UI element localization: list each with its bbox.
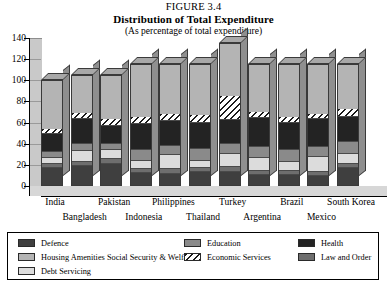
legend-swatch-defence (18, 239, 35, 247)
bar-segment-housing-amenities-social-security-welfare (72, 76, 92, 113)
bar-front-face (307, 64, 329, 186)
legend-label: Defence (41, 239, 69, 248)
bar-south-korea[interactable] (337, 64, 359, 186)
bar-segment-defence (220, 172, 240, 186)
bar-segment-education (190, 149, 210, 161)
bar-front-face (189, 64, 211, 186)
bar-side-face (122, 60, 129, 176)
bar-segment-debt-servicing (220, 154, 240, 167)
bar-pakistan[interactable] (100, 75, 122, 186)
plot-area: 020406080100120140 (0, 38, 387, 198)
bar-side-face (63, 65, 70, 176)
x-axis-label-brazil: Brazil (280, 196, 303, 208)
y-tick-mark (24, 101, 29, 102)
legend-label: Debt Servicing (41, 267, 91, 276)
y-tick-mark (24, 80, 29, 81)
bar-segment-debt-servicing (249, 158, 269, 171)
bar-segment-education (160, 146, 180, 156)
bar-segment-health (42, 134, 62, 152)
bar-segment-defence (42, 168, 62, 186)
legend-item-law-and-order[interactable]: Law and Order (298, 251, 371, 263)
bar-philippines[interactable] (159, 64, 181, 186)
legend-item-health[interactable]: Health (298, 237, 343, 249)
bar-thailand[interactable] (189, 64, 211, 186)
legend-item-economic-services[interactable]: Economic Services (184, 251, 271, 263)
back-wall-line (29, 144, 41, 145)
bar-segment-housing-amenities-social-security-welfare (220, 44, 240, 96)
bar-side-face (181, 49, 188, 176)
bar-segment-health (190, 123, 210, 149)
bar-bangladesh[interactable] (71, 75, 93, 186)
bar-segment-education (338, 142, 358, 155)
bar-segment-housing-amenities-social-security-welfare (338, 65, 358, 108)
bar-segment-debt-servicing (338, 154, 358, 164)
bar-segment-housing-amenities-social-security-welfare (160, 65, 180, 114)
legend-item-education[interactable]: Education (184, 237, 241, 249)
bar-mexico[interactable] (307, 64, 329, 186)
bar-segment-housing-amenities-social-security-welfare (42, 81, 62, 129)
bar-segment-health (72, 119, 92, 143)
legend-swatch-housing-amenities-social-security-welfare (18, 253, 35, 261)
bar-segment-health (279, 123, 299, 150)
bar-segment-debt-servicing (279, 162, 299, 172)
bar-side-face (211, 49, 218, 176)
bar-turkey[interactable] (219, 43, 241, 186)
bar-segment-debt-servicing (160, 155, 180, 169)
bar-segment-defence (249, 175, 269, 186)
back-wall-line (29, 101, 41, 102)
bar-side-face (300, 49, 307, 176)
y-tick-mark (24, 59, 29, 60)
bar-segment-debt-servicing (131, 161, 151, 169)
bar-segment-housing-amenities-social-security-welfare (249, 65, 269, 112)
y-tick-mark (24, 165, 29, 166)
legend-item-housing-amenities-social-security-welfare[interactable]: Housing Amenities Social Security & Welf… (18, 251, 194, 263)
bar-series-group (41, 38, 387, 196)
back-wall-line (29, 59, 41, 60)
legend-swatch-debt-servicing (18, 267, 35, 275)
bar-segment-debt-servicing (190, 161, 210, 168)
legend-label: Education (207, 239, 241, 248)
legend-item-defence[interactable]: Defence (18, 237, 69, 249)
bar-indonesia[interactable] (130, 64, 152, 186)
legend-swatch-education (184, 239, 201, 247)
legend-swatch-health (298, 239, 315, 247)
bar-front-face (41, 80, 63, 186)
bar-segment-debt-servicing (101, 150, 121, 160)
bar-segment-defence (279, 175, 299, 186)
bar-argentina[interactable] (248, 64, 270, 186)
bar-segment-education (72, 144, 92, 151)
bar-front-face (130, 64, 152, 186)
bar-segment-defence (190, 172, 210, 186)
bar-brazil[interactable] (278, 64, 300, 186)
x-axis-label-india: India (45, 196, 65, 208)
back-wall-line (29, 123, 41, 124)
bar-side-face (329, 49, 336, 176)
y-axis-labels: 020406080100120140 (0, 38, 26, 198)
x-axis-labels-row-1: IndiaPakistanPhilippinesTurkeyBrazilSout… (41, 196, 387, 209)
bar-segment-health (220, 120, 240, 143)
legend-swatch-law-and-order (298, 253, 315, 261)
figure-label: FIGURE 3.4 (0, 1, 387, 12)
legend-swatch-economic-services (184, 253, 201, 261)
x-axis-labels-row-2: BangladeshIndonesiaThailandArgentinaMexi… (41, 211, 387, 224)
bar-front-face (278, 64, 300, 186)
bar-front-face (337, 64, 359, 186)
legend-item-debt-servicing[interactable]: Debt Servicing (18, 265, 91, 277)
bar-india[interactable] (41, 80, 63, 186)
bar-segment-defence (338, 168, 358, 186)
y-axis-line (29, 38, 30, 196)
bar-segment-health (160, 121, 180, 145)
chart-page: FIGURE 3.4 Distribution of Total Expendi… (0, 0, 387, 286)
bar-segment-economic-services (338, 109, 358, 117)
x-axis-label-turkey: Turkey (219, 196, 246, 208)
x-axis-label-argentina: Argentina (243, 211, 281, 223)
legend-label: Housing Amenities Social Security & Welf… (41, 253, 194, 262)
bar-segment-housing-amenities-social-security-welfare (101, 76, 121, 119)
legend-label: Health (321, 239, 343, 248)
bar-front-face (219, 43, 241, 186)
bar-segment-health (308, 119, 328, 146)
bar-front-face (248, 64, 270, 186)
back-wall-line (29, 80, 41, 81)
x-axis-label-pakistan: Pakistan (98, 196, 130, 208)
bar-segment-housing-amenities-social-security-welfare (131, 65, 151, 117)
